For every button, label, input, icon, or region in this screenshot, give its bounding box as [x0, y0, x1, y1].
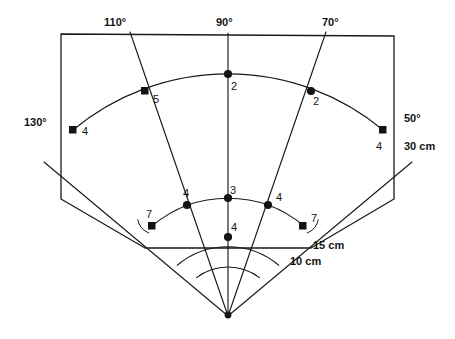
- value-label-50-30: 4: [376, 141, 382, 152]
- angle-label-130: 130°: [24, 117, 47, 128]
- value-label-70-30: 2: [313, 96, 319, 107]
- dot-110-30: [141, 87, 149, 95]
- angle-label-90: 90°: [216, 17, 233, 28]
- angle-label-110: 110°: [104, 17, 126, 28]
- value-label-90-10: 4: [231, 222, 237, 233]
- value-label-130-30: 4: [82, 126, 88, 137]
- value-label-130-15: 7: [146, 209, 152, 220]
- dot-70-30: [307, 87, 315, 95]
- angle-label-50: 50°: [404, 113, 421, 124]
- radius-label-15cm: 15 cm: [313, 240, 344, 251]
- radius-label-30cm: 30 cm: [404, 141, 435, 152]
- value-label-90-30: 2: [231, 81, 237, 92]
- polar-fan-diagram: 130° 110° 90° 70° 50° 30 cm 15 cm 10 cm …: [0, 0, 455, 339]
- dot-origin: [225, 312, 232, 319]
- value-label-110-15: 4: [183, 188, 189, 199]
- dot-50-30: [379, 126, 387, 134]
- dot-110-15: [183, 201, 191, 209]
- right-angle-tick-left: [138, 220, 149, 233]
- dot-50-15: [299, 222, 307, 230]
- value-label-90-15: 3: [230, 185, 236, 196]
- value-label-110-30: 5: [153, 94, 159, 105]
- dot-90-30: [224, 70, 232, 78]
- dot-70-15: [264, 201, 272, 209]
- ray-130-degrees: [44, 162, 228, 316]
- dot-130-30: [69, 126, 77, 134]
- value-label-70-15: 4: [276, 192, 282, 203]
- diagram-canvas: [0, 0, 455, 339]
- angle-label-70: 70°: [322, 17, 339, 28]
- dot-130-15: [148, 222, 156, 230]
- radius-label-10cm: 10 cm: [290, 256, 321, 267]
- value-label-50-15: 7: [311, 213, 317, 224]
- dot-90-10: [224, 233, 232, 241]
